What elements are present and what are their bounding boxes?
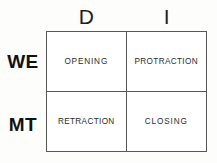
matrix-cell-we-i: PROTRACTION <box>127 32 207 92</box>
matrix-cell-label-protraction: PROTRACTION <box>135 57 198 66</box>
matrix-cell-label-retraction: RETRACTION <box>58 117 115 126</box>
matrix-cell-label-closing: CLOSING <box>145 117 188 126</box>
column-header-d: D <box>46 4 127 30</box>
matrix-cell-mt-i: CLOSING <box>127 92 207 152</box>
matrix-cell-mt-d: RETRACTION <box>47 92 127 152</box>
matrix-cell-we-d: OPENING <box>47 32 127 92</box>
row-label-mt: MT <box>2 113 44 137</box>
column-header-i: I <box>127 4 207 30</box>
matrix-diagram: D I WE MT OPENING PROTRACTION RETRACTION… <box>0 0 217 163</box>
row-label-we: WE <box>2 50 44 74</box>
matrix-grid: OPENING PROTRACTION RETRACTION CLOSING <box>46 31 207 152</box>
matrix-cell-label-opening: OPENING <box>64 57 108 66</box>
